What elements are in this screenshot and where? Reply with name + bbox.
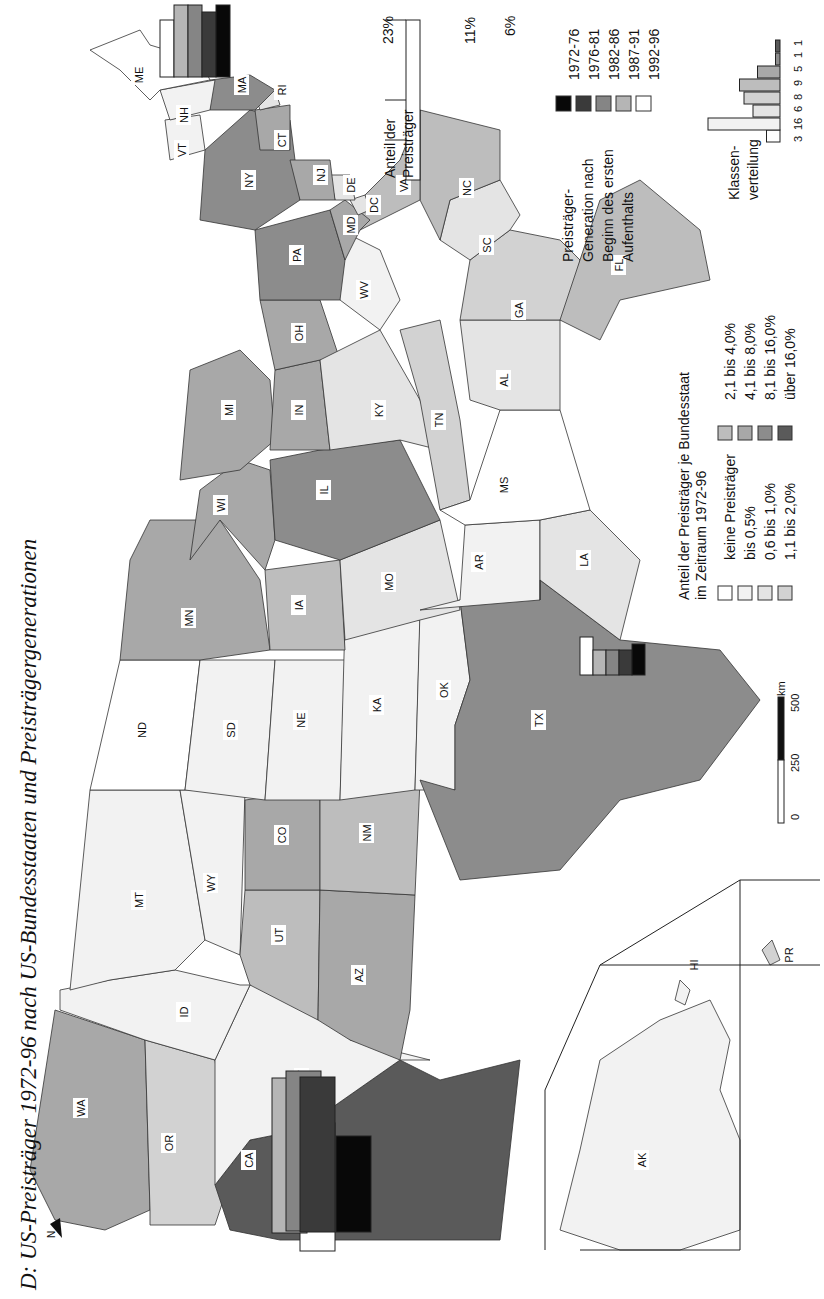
legend-gen-title-1: Preisträger- xyxy=(560,189,577,262)
svg-text:MI: MI xyxy=(223,404,235,416)
svg-text:NM: NM xyxy=(361,824,373,841)
state-label-ar: AR xyxy=(471,552,486,572)
scale-bar-tick-500: 500 xyxy=(789,694,801,712)
state-label-sd: SD xyxy=(223,720,238,740)
state-label-ny: NY xyxy=(241,170,256,190)
legend-share-swatch-5 xyxy=(738,426,752,440)
state-label-ms: MS xyxy=(496,475,511,495)
legend-class-count-7: 1 xyxy=(790,40,807,46)
svg-text:WY: WY xyxy=(205,873,217,891)
svg-text:KA: KA xyxy=(371,697,383,712)
legend-share-class-6: 8,1 bis 16,0% xyxy=(762,315,779,400)
legend-class-count-4: 9 xyxy=(790,80,807,86)
us-choropleth-map: WAORCANVIDMTWYUTCOAZNMNDSDNEKAOKTXMNIAMO… xyxy=(0,0,824,1299)
legend-gen-item-4: 1992-96 xyxy=(646,29,663,80)
svg-text:TN: TN xyxy=(433,413,445,428)
svg-text:NE: NE xyxy=(295,712,307,727)
state-label-co: CO xyxy=(274,825,289,845)
state-label-ri: RI xyxy=(274,80,289,100)
state-label-md: MD xyxy=(343,215,358,235)
state-label-nc: NC xyxy=(459,178,474,198)
legend-class-count-3: 8 xyxy=(790,94,807,100)
svg-text:IA: IA xyxy=(293,599,305,610)
state-label-nj: NJ xyxy=(313,165,328,185)
svg-text:AL: AL xyxy=(498,373,510,386)
svg-text:IN: IN xyxy=(293,404,305,415)
svg-text:ND: ND xyxy=(136,722,148,738)
state-label-ia: IA xyxy=(291,595,306,615)
class-dist-bar-5 xyxy=(758,66,781,78)
legend-share-class-2: 0,6 bis 1,0% xyxy=(762,483,779,560)
state-label-mt: MT xyxy=(131,890,146,910)
state-label-nh: NH xyxy=(176,105,191,125)
state-label-mi: MI xyxy=(221,400,236,420)
svg-text:NY: NY xyxy=(243,172,255,188)
svg-text:RI: RI xyxy=(276,85,288,96)
state-label-wa: WA xyxy=(73,1098,88,1118)
state-label-sc: SC xyxy=(479,235,494,255)
svg-text:VT: VT xyxy=(176,143,188,157)
svg-text:MO: MO xyxy=(383,573,395,591)
legend-share-title-1: Anteil der Preisträger je Bundesstaat xyxy=(676,372,693,600)
state-label-nm: NM xyxy=(359,823,374,843)
legend-share-swatch-6 xyxy=(758,426,772,440)
svg-text:SC: SC xyxy=(481,237,493,252)
state-label-id: ID xyxy=(176,1002,191,1022)
svg-text:GA: GA xyxy=(513,301,525,318)
legend-share-swatch-1 xyxy=(738,586,752,600)
legend-share-swatch-2 xyxy=(758,586,772,600)
svg-text:ME: ME xyxy=(133,67,145,84)
state-label-az: AZ xyxy=(351,965,366,985)
state-label-wi: WI xyxy=(213,495,228,515)
state-tx xyxy=(420,580,760,880)
state-wa xyxy=(30,1010,150,1230)
svg-text:KY: KY xyxy=(373,402,385,417)
legend-share-class-1: bis 0,5% xyxy=(742,506,759,560)
legend-gen-swatch-1 xyxy=(576,96,591,111)
legend-share-class-3: 1,1 bis 2,0% xyxy=(782,483,799,560)
legend-share-class-4: 2,1 bis 4,0% xyxy=(722,323,739,400)
legend-class-dist-title-2: verteilung xyxy=(745,139,762,200)
scale-bar-tick-250: 250 xyxy=(789,754,801,772)
states-layer xyxy=(30,30,780,1250)
state-label-or: OR xyxy=(161,1133,176,1153)
scale-bar xyxy=(778,697,784,823)
state-label-ma: MA xyxy=(234,75,249,95)
state-label-in: IN xyxy=(291,400,306,420)
scale-bar-tick-0: 0 xyxy=(789,814,801,820)
state-label-il: IL xyxy=(316,480,331,500)
legend-gen-swatch-3 xyxy=(616,96,631,111)
svg-text:LA: LA xyxy=(578,553,590,567)
legend-class-count-0: 3 xyxy=(790,136,807,142)
state-label-ca: CA xyxy=(241,1150,256,1170)
svg-text:NH: NH xyxy=(178,107,190,123)
legend-share-swatch-4 xyxy=(718,426,732,440)
svg-text:UT: UT xyxy=(273,927,285,942)
state-label-tx: TX xyxy=(531,710,546,730)
state-label-ok: OK xyxy=(436,680,451,700)
state-hi xyxy=(675,980,690,1005)
legend-class-count-6: 1 xyxy=(790,52,807,58)
svg-text:CT: CT xyxy=(276,132,288,147)
svg-text:NJ: NJ xyxy=(315,168,327,181)
legend-class-count-5: 5 xyxy=(790,66,807,72)
state-label-vt: VT xyxy=(174,140,189,160)
class-dist-bar-2 xyxy=(753,105,780,117)
svg-text:MS: MS xyxy=(498,477,510,494)
legend-gen-item-3: 1987-91 xyxy=(626,29,643,80)
svg-text:WV: WV xyxy=(358,280,370,298)
bar-chart-ny xyxy=(160,5,230,77)
svg-text:MA: MA xyxy=(236,76,248,93)
legend-gen-item-0: 1972-76 xyxy=(566,29,583,80)
legend-bar-scale-tick-6: 6% xyxy=(502,16,519,36)
legend-share-class-0: keine Preisträger xyxy=(722,454,739,560)
svg-text:DC: DC xyxy=(368,197,380,213)
svg-text:PA: PA xyxy=(291,247,303,262)
svg-text:TX: TX xyxy=(533,712,545,727)
svg-text:MN: MN xyxy=(183,609,195,626)
legend-class-dist-title-1: Klassen- xyxy=(726,146,743,200)
svg-text:OK: OK xyxy=(438,681,450,698)
legend-share-swatch-3 xyxy=(778,586,792,600)
class-dist-bar-4 xyxy=(740,79,781,91)
page-title: D: US-Preisträger 1972-96 nach US-Bundes… xyxy=(16,539,42,1290)
